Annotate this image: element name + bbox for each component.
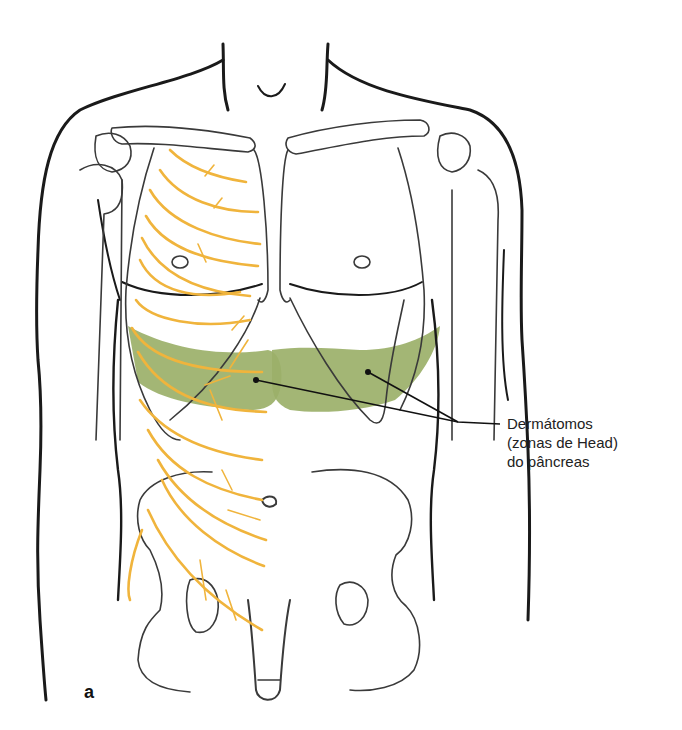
anatomy-illustration: [0, 0, 682, 730]
annotation-line-3: do pâncreas: [507, 452, 618, 471]
pancreas-dermatome-zone: [128, 326, 440, 412]
annotation-line-2: (zonas de Head): [507, 433, 618, 452]
annotation-line-1: Dermátomos: [507, 414, 618, 433]
dermatome-annotation-label: Dermátomos (zonas de Head) do pâncreas: [507, 414, 618, 471]
panel-letter: a: [84, 682, 94, 703]
